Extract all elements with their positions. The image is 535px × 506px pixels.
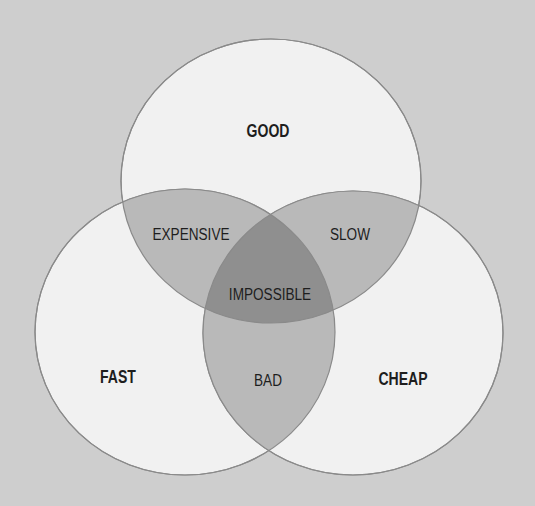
- venn-diagram: GOOD FAST CHEAP EXPENSIVE SLOW BAD IMPOS…: [0, 0, 535, 506]
- label-bad: BAD: [254, 371, 282, 390]
- label-good: GOOD: [247, 120, 290, 140]
- label-expensive: EXPENSIVE: [152, 225, 229, 244]
- label-impossible: IMPOSSIBLE: [229, 285, 311, 304]
- label-cheap: CHEAP: [378, 368, 427, 388]
- label-slow: SLOW: [330, 225, 370, 244]
- venn-svg: GOOD FAST CHEAP EXPENSIVE SLOW BAD IMPOS…: [0, 0, 535, 506]
- label-fast: FAST: [100, 366, 136, 386]
